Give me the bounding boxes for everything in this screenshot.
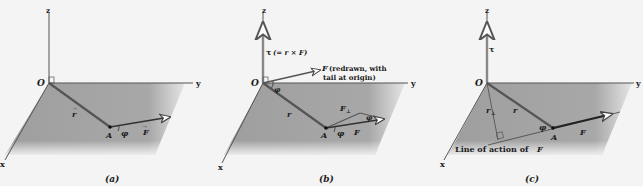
f-redrawn-line2: tail at origin) (323, 73, 376, 82)
f-redrawn-symbol: F (321, 63, 329, 73)
torque-label: τ (489, 44, 494, 54)
origin-label: O (475, 78, 483, 88)
z-label: z (262, 6, 266, 15)
origin-label: O (251, 78, 259, 88)
point-a (108, 125, 112, 129)
torque-figure: z y x O r → A φ F → (a) z y x O τ (= r ×… (0, 0, 643, 186)
f-arrow-icon: → (142, 123, 148, 129)
caption-c: (c) (525, 174, 539, 184)
x-label: x (218, 162, 223, 172)
r-arrow-icon: → (72, 105, 78, 111)
phi-label: φ (121, 128, 129, 138)
phi-tip-label: φ (366, 113, 373, 122)
point-a-label: A (320, 130, 327, 140)
y-label: y (635, 78, 641, 88)
origin-label: O (37, 78, 45, 88)
point-a (551, 126, 555, 130)
caption-a: (a) (105, 174, 119, 184)
f-perp-subscript: ⊥ (346, 108, 351, 114)
phi-a-label: φ (337, 128, 345, 138)
point-a-label: A (550, 132, 557, 142)
f-redrawn-line1: (redrawn, with (329, 64, 387, 73)
y-label: y (195, 78, 201, 88)
torque-equation: (= r × F) (273, 48, 307, 57)
torque-symbol: τ (266, 47, 271, 57)
panel-c: z y x O τ r ⊥ r φ A F Line of action of … (440, 6, 641, 184)
z-label: z (46, 6, 50, 15)
panel-a: z y x O r → A φ F → (a) (0, 6, 201, 184)
panel-b: z y x O τ (= r × F) F (redrawn, with tai… (218, 6, 416, 184)
x-label: x (0, 159, 5, 169)
y-label: y (410, 78, 416, 88)
phi-label: φ (539, 122, 547, 132)
right-angle-marker (49, 77, 54, 83)
z-label: z (485, 6, 489, 15)
r-perp-subscript: ⊥ (491, 110, 496, 116)
f-redrawn-vector (263, 70, 320, 83)
point-a-label: A (105, 130, 112, 140)
phi-origin-label: φ (274, 85, 281, 94)
caption-b: (b) (319, 174, 334, 184)
line-of-action-label: Line of action of (455, 144, 529, 154)
x-label: x (440, 159, 445, 169)
